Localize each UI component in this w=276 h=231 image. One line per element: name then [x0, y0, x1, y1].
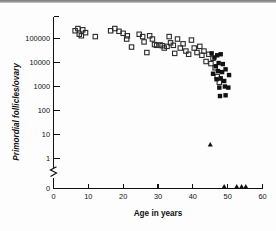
y-tick-label-100000: 100000: [25, 34, 50, 43]
y-tick-labels: 100000 10000 1000 100 10 1 0: [25, 34, 50, 193]
y-tick-label-0: 0: [46, 184, 50, 193]
data-point-filled-square: [223, 67, 227, 71]
y-tick-label-1000: 1000: [34, 82, 50, 91]
data-point-open-square: [142, 40, 146, 44]
data-point-open-square: [167, 34, 171, 38]
data-point-filled-square: [211, 72, 215, 76]
y-tick-label-10000: 10000: [29, 58, 50, 67]
axis-break-mark: [51, 167, 57, 177]
data-point-filled-square: [218, 94, 222, 98]
x-tick-label-20: 20: [119, 192, 127, 201]
y-tick-label-1: 1: [46, 154, 50, 163]
data-point-filled-square: [216, 69, 220, 73]
y-tick-label-10: 10: [42, 130, 50, 139]
series-triangle-markers: [208, 142, 249, 189]
data-point-triangle: [234, 184, 239, 188]
data-point-filled-square: [226, 85, 230, 89]
x-ticks: [54, 184, 263, 189]
data-point-open-square: [192, 46, 196, 50]
scatter-plot: 100000 10000 1000 100 10 1 0 0 10 20 30 …: [0, 0, 276, 231]
x-tick-label-30: 30: [154, 192, 162, 201]
data-point-filled-square: [221, 62, 225, 66]
data-point-triangle: [222, 184, 227, 188]
data-point-open-square: [204, 59, 208, 63]
data-point-open-square: [189, 38, 193, 42]
data-point-open-square: [145, 50, 149, 54]
data-point-filled-square: [219, 52, 223, 56]
data-point-filled-square: [222, 79, 226, 83]
data-point-open-square: [81, 28, 85, 32]
x-tick-label-50: 50: [224, 192, 232, 201]
data-point-filled-square: [227, 73, 231, 77]
y-axis-title: Primordial follicles/ovary: [12, 63, 21, 161]
data-point-filled-square: [214, 77, 218, 81]
series-filled-square-markers: [209, 51, 231, 98]
data-point-open-square: [175, 37, 179, 41]
data-point-open-square: [93, 34, 97, 38]
figure-container: 100000 10000 1000 100 10 1 0 0 10 20 30 …: [0, 0, 276, 231]
x-tick-label-60: 60: [258, 192, 266, 201]
data-point-open-square: [195, 50, 199, 54]
x-tick-label-0: 0: [51, 192, 55, 201]
data-point-open-square: [129, 45, 133, 49]
y-tick-label-100: 100: [38, 106, 50, 115]
data-point-filled-square: [223, 93, 227, 97]
x-axis-title: Age in years: [134, 209, 183, 218]
data-point-filled-square: [217, 85, 221, 89]
data-point-triangle: [239, 184, 244, 188]
data-point-open-square: [173, 51, 177, 55]
x-tick-label-40: 40: [189, 192, 197, 201]
x-tick-labels: 0 10 20 30 40 50 60: [51, 192, 266, 201]
data-point-filled-square: [209, 51, 213, 55]
data-point-triangle: [243, 184, 248, 188]
series-open-square-markers: [73, 26, 222, 84]
y-ticks: [54, 39, 60, 189]
data-point-filled-square: [216, 61, 220, 65]
x-tick-label-10: 10: [84, 192, 92, 201]
data-point-open-square: [198, 44, 202, 48]
data-point-triangle: [208, 142, 213, 146]
